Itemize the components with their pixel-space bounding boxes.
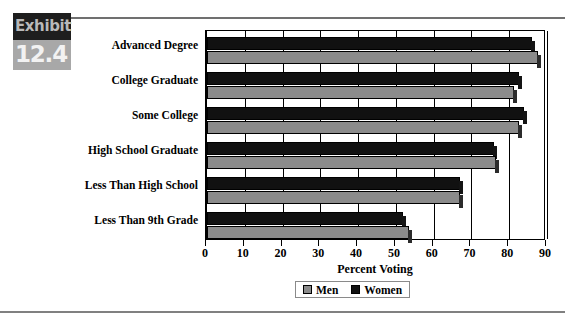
bar-group <box>207 101 544 136</box>
bar-women <box>207 72 519 85</box>
bar-women <box>207 142 494 155</box>
gridline <box>547 31 548 239</box>
x-axis-tick-label: 50 <box>374 246 414 261</box>
category-label: Less Than 9th Grade <box>0 214 198 226</box>
category-axis-labels: Advanced DegreeCollege GraduateSome Coll… <box>0 30 200 240</box>
bar-men <box>207 191 460 204</box>
x-axis-tick-label: 40 <box>336 246 376 261</box>
bar-women <box>207 177 460 190</box>
category-label: Less Than High School <box>0 179 198 191</box>
bar-men <box>207 156 496 169</box>
bar-men <box>207 121 519 134</box>
exhibit-figure: Exhibit 12.4 Advanced DegreeCollege Grad… <box>0 0 565 324</box>
category-label: Some College <box>0 109 198 121</box>
x-axis-tick-label: 20 <box>261 246 301 261</box>
legend-item-men: Men <box>303 284 338 296</box>
x-axis-tick-label: 60 <box>412 246 452 261</box>
bar-men <box>207 86 514 99</box>
legend-label-men: Men <box>316 284 338 296</box>
bar-men <box>207 51 538 64</box>
legend-label-women: Women <box>364 284 402 296</box>
category-label: Advanced Degree <box>0 39 198 51</box>
chart-legend: Men Women <box>295 281 410 298</box>
category-label: High School Graduate <box>0 144 198 156</box>
category-label: College Graduate <box>0 74 198 86</box>
men-swatch-icon <box>303 285 312 294</box>
bar-women <box>207 212 403 225</box>
bar-group <box>207 66 544 101</box>
x-axis-tick-label: 80 <box>487 246 527 261</box>
legend-item-women: Women <box>351 284 402 296</box>
x-axis-title: Percent Voting <box>205 262 545 277</box>
x-axis-tick-label: 0 <box>185 246 225 261</box>
women-swatch-icon <box>351 285 360 294</box>
x-axis-tick-label: 30 <box>298 246 338 261</box>
x-axis-tick-label: 70 <box>449 246 489 261</box>
bar-men <box>207 226 409 239</box>
bar-women <box>207 37 532 50</box>
footer-divider <box>0 311 565 313</box>
x-axis-tick-label: 90 <box>525 246 565 261</box>
bar-group <box>207 31 544 66</box>
x-axis-tick-labels: 0102030405060708090 <box>205 246 545 262</box>
bar-depth-cap <box>518 76 522 89</box>
header-divider <box>71 17 565 19</box>
bar-group <box>207 171 544 206</box>
bar-depth-cap <box>523 111 527 124</box>
bar-group <box>207 136 544 171</box>
x-axis-tick-label: 10 <box>223 246 263 261</box>
plot-area <box>205 30 545 240</box>
bar-women <box>207 107 524 120</box>
bar-group <box>207 206 544 241</box>
